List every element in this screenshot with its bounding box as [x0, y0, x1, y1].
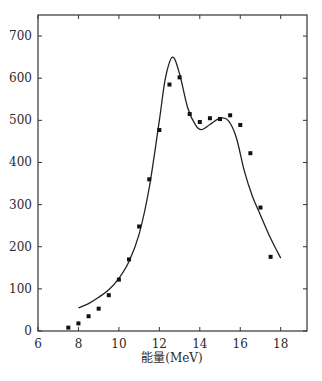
data-point [97, 307, 101, 311]
x-tick-label: 10 [111, 337, 126, 351]
y-tick-label: 300 [9, 198, 32, 212]
x-axis-ticks: 681012141618 [34, 15, 288, 351]
data-points [66, 75, 272, 329]
data-point [198, 120, 202, 124]
y-tick-label: 200 [9, 240, 32, 254]
x-axis-title: 能量(MeV) [141, 351, 202, 365]
y-tick-label: 0 [24, 324, 32, 338]
x-tick-label: 8 [75, 337, 83, 351]
data-point [147, 177, 151, 181]
x-tick-label: 18 [273, 337, 288, 351]
data-point [218, 117, 222, 121]
data-point [157, 128, 161, 132]
data-point [127, 257, 131, 261]
data-point [258, 206, 262, 210]
x-tick-label: 14 [192, 337, 208, 351]
data-point [269, 255, 273, 259]
data-point [137, 225, 141, 229]
chart: 0100200300400500600700 681012141618 能量(M… [0, 0, 322, 381]
y-tick-label: 700 [9, 29, 32, 43]
plot-border [38, 15, 307, 331]
x-tick-label: 6 [34, 337, 42, 351]
data-point [66, 326, 70, 330]
y-tick-label: 600 [9, 71, 32, 85]
data-point [167, 83, 171, 87]
y-tick-label: 500 [9, 113, 32, 127]
plot-frame [38, 15, 307, 331]
data-point [228, 113, 232, 117]
data-point [107, 293, 111, 297]
x-tick-label: 12 [152, 337, 167, 351]
y-axis-ticks: 0100200300400500600700 [9, 29, 307, 338]
data-point [87, 314, 91, 318]
data-point [238, 123, 242, 127]
y-tick-label: 400 [9, 155, 32, 169]
data-point [76, 321, 80, 325]
data-point [188, 112, 192, 116]
data-point [248, 151, 252, 155]
data-point [117, 278, 121, 282]
y-tick-label: 100 [9, 282, 32, 296]
data-point [208, 116, 212, 120]
data-point [178, 75, 182, 79]
fit-curve [78, 57, 280, 308]
x-tick-label: 16 [233, 337, 248, 351]
